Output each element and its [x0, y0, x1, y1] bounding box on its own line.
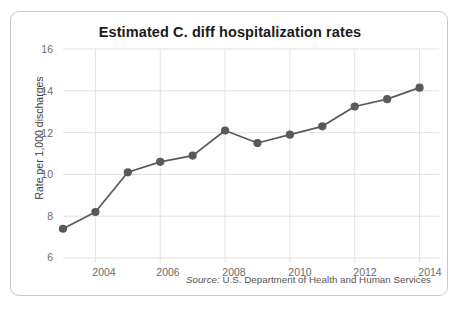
plot-area: Rate per 1,000 discharges 16 14 12 10 8 …	[11, 12, 449, 297]
y-tick-label-10: 10	[27, 168, 53, 180]
data-point	[318, 122, 326, 130]
y-tick-label-12: 12	[27, 127, 53, 139]
data-point	[221, 126, 229, 134]
source-caption: Source: U.S. Department of Health and Hu…	[186, 274, 431, 285]
data-point	[415, 84, 423, 92]
data-point	[253, 139, 261, 147]
data-point	[189, 151, 197, 159]
y-tick-label-16: 16	[27, 43, 53, 55]
source-label: Source:	[186, 274, 220, 285]
chart-card: Estimated C. diff hospitalization rates …	[10, 11, 448, 296]
line-chart-svg	[11, 12, 449, 297]
data-point	[124, 168, 132, 176]
y-tick-label-14: 14	[27, 85, 53, 97]
source-text: U.S. Department of Health and Human Serv…	[222, 274, 431, 285]
data-point	[351, 102, 359, 110]
data-point	[59, 225, 67, 233]
data-point	[91, 208, 99, 216]
data-point	[156, 158, 164, 166]
y-tick-label-6: 6	[27, 251, 53, 263]
x-tick-label-2004: 2004	[82, 266, 126, 278]
data-line	[63, 88, 420, 229]
data-point	[286, 131, 294, 139]
y-tick-label-8: 8	[27, 210, 53, 222]
data-point	[383, 95, 391, 103]
grid-lines	[63, 49, 439, 262]
x-tick-label-2006: 2006	[146, 266, 190, 278]
data-markers	[59, 84, 424, 233]
